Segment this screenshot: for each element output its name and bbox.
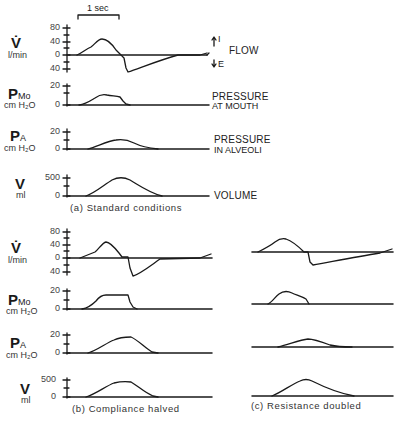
flow-arrow-i-label: I — [218, 35, 221, 44]
vol-label: VOLUME — [214, 191, 257, 201]
a-flow-tick-40: 40 — [34, 36, 60, 46]
pa-label-line1: PRESSURE — [214, 135, 271, 145]
arrow-inspiration-icon — [212, 37, 216, 46]
b-pmo-tick-20: 20 — [34, 285, 60, 295]
b-pmo-axis — [63, 289, 70, 310]
a-vol-axis — [63, 175, 70, 197]
b-vol-tick-500: 500 — [30, 374, 56, 384]
b-flow-curve — [80, 242, 211, 276]
c-pmo-curve — [268, 292, 309, 304]
b-vol-symbol: V — [20, 381, 30, 396]
b-flow-axis — [63, 229, 70, 275]
a-flow-unit: l/min — [8, 50, 27, 60]
a-pmo-unit: cm H₂O — [4, 100, 36, 110]
a-vol-curve — [86, 178, 162, 196]
a-pa-curve — [88, 140, 158, 149]
a-pmo-curve — [79, 95, 130, 105]
a-flow-tick-0: 0 — [34, 49, 60, 59]
time-scale-label: 1 sec — [87, 3, 109, 13]
b-flow-tick-40: 40 — [34, 239, 60, 249]
a-vol-tick-0: 0 — [34, 190, 60, 200]
trace-canvas — [0, 0, 401, 421]
a-pa-tick-0: 0 — [34, 143, 60, 153]
b-pa-tick-20: 20 — [34, 329, 60, 339]
pa-label-line2: IN ALVEOLI — [214, 146, 262, 155]
a-flow-axis — [63, 25, 70, 72]
flow-label: FLOW — [229, 46, 259, 56]
a-pmo-tick-0: 0 — [34, 99, 60, 109]
flow-arrow-e-label: E — [218, 60, 224, 69]
caption-b: (b) Compliance halved — [72, 403, 180, 414]
a-pa-axis — [63, 129, 70, 150]
a-pmo-axis — [63, 84, 70, 106]
b-pa-curve — [88, 337, 158, 353]
caption-a: (a) Standard conditions — [70, 202, 182, 213]
a-pmo-tick-20: 20 — [34, 80, 60, 90]
a-vol-tick-500: 500 — [34, 172, 60, 182]
a-flow-tick-80: 80 — [34, 22, 60, 32]
b-pmo-unit: cm H₂O — [6, 306, 38, 316]
a-flow-tick-neg40: 40 — [34, 63, 60, 73]
a-vol-symbol: V — [15, 176, 25, 191]
arrow-expiration-icon — [212, 60, 216, 67]
b-vol-curve — [86, 382, 158, 397]
b-pmo-curve — [82, 295, 137, 309]
b-vol-tick-0: 0 — [30, 391, 56, 401]
b-pmo-tick-0: 0 — [34, 303, 60, 313]
a-vol-unit: ml — [16, 190, 26, 200]
caption-c: (c) Resistance doubled — [251, 400, 361, 411]
b-flow-tick-0: 0 — [34, 252, 60, 262]
c-pa-curve — [278, 339, 352, 347]
b-pa-axis — [63, 333, 70, 354]
c-vol-curve — [272, 380, 354, 397]
b-vol-axis — [63, 378, 70, 398]
b-flow-tick-80: 80 — [34, 226, 60, 236]
b-flow-tick-neg40: 40 — [34, 266, 60, 276]
b-pa-unit: cm H₂O — [6, 350, 38, 360]
time-scale-bar — [78, 15, 119, 19]
a-flow-symbol: V̇ — [11, 35, 21, 50]
pmo-label-line2: AT MOUTH — [212, 102, 258, 111]
b-flow-unit: l/min — [8, 255, 27, 265]
b-pa-tick-0: 0 — [34, 347, 60, 357]
a-pa-tick-20: 20 — [34, 126, 60, 136]
b-flow-symbol: V̇ — [11, 240, 21, 255]
a-pa-unit: cm H₂O — [4, 143, 36, 153]
